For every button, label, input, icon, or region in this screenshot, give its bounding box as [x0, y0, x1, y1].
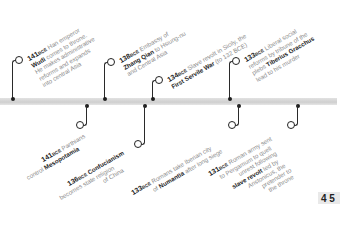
event-stem [86, 105, 87, 122]
event-stem [238, 105, 239, 122]
event-marker-ring [107, 58, 115, 66]
event-dot [151, 97, 155, 101]
page-number-tab: 4 5 [318, 192, 340, 204]
event-marker-ring [76, 121, 84, 129]
event-dot [103, 97, 107, 101]
event-dot [11, 97, 15, 101]
event-label-131-pergamum: 131BCE Roman army sent to Pergamum to qu… [207, 134, 296, 215]
event-label-133-gracchus: 133BCE Liberal social reforms by tribune… [243, 22, 319, 83]
event-stem [104, 66, 105, 100]
event-marker-ring [134, 140, 142, 148]
event-marker-ring [15, 56, 23, 64]
event-marker-ring [155, 76, 163, 84]
timeline-bar [0, 98, 337, 105]
event-stem [297, 105, 298, 122]
event-stem [229, 65, 230, 100]
event-marker-ring [232, 57, 240, 65]
event-marker-ring [228, 121, 236, 129]
event-stem [12, 64, 13, 100]
event-label-141-wudi: 141BCE Han emperor Wudi comes to throne.… [26, 22, 103, 88]
event-dot [228, 97, 232, 101]
event-marker-ring [287, 121, 295, 129]
event-stem [144, 105, 145, 141]
